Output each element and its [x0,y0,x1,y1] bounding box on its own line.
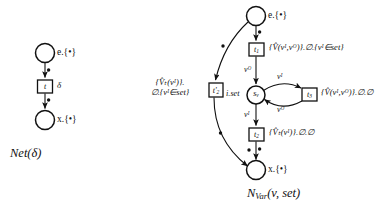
transition-t1-box-label: t1 [249,45,264,54]
transition-t2p-annotation: {V̂ₜ(vᴵ)}. ∅.{vᴵ∈set} [138,78,202,97]
place-e-left-label: e.{•} [57,47,76,58]
transition-t1-annotation: {V̂(vᴵ,vᴼ)}.∅.{vᴵ∈set} [269,43,344,53]
arc-token-2-left [47,98,50,101]
place-x-left-label: x.{•} [57,114,77,125]
place-x-right-label: x.{•} [268,164,288,175]
place-e-left [36,44,55,63]
transition-t2-annotation: {V̂ₜ(vᴵ)}.∅.∅ [269,128,314,138]
arc-label-sv-t3: vᴵ [277,73,283,82]
transition-t3-box-label: t3 [302,90,317,99]
arc-sv-to-t3 [264,84,302,91]
transition-t2-box-label: t2 [249,130,264,139]
arc-token-1-left [47,68,50,71]
transition-t-left-label: t [38,82,53,91]
place-e-right-label: e.{•} [268,10,287,21]
place-x-left [36,111,55,130]
figure-canvas: e.{•} t δ x.{•} Net(δ) e.{•} t1 {V̂(vᴵ,v… [0,0,390,211]
place-x-right [247,161,266,180]
transition-t2p-annotation-line2: ∅.{vᴵ∈set} [138,88,202,98]
arc-label-t3-sv: vᴼ [277,106,284,115]
transition-t3-annotation: {V̂(vᴵ,vᴼ)}.∅.∅ [321,88,373,98]
arc-token-t2p-x [219,131,222,134]
arc-token-t2-x [258,147,261,150]
arc-token-t2p-x-2 [247,148,250,151]
left-net-caption: Net(δ) [10,146,42,160]
right-net-caption: NVar(v, set) [247,186,300,201]
place-sv-side-label: i.set [226,89,240,98]
arc-t2p-to-x [214,98,248,167]
transition-t-left-side-label: δ [57,80,61,90]
arc-label-sv-t2: vᴵ [244,111,250,120]
petri-net-graphics [0,0,390,211]
place-sv-label: sv [249,89,263,98]
transition-t2p-box-label: t'2 [209,86,223,95]
arc-token-e-t2p [221,44,224,47]
arc-label-t1-sv: vᴼ [244,66,251,75]
arc-token-e-t1 [258,30,261,33]
place-e-right [247,7,266,26]
